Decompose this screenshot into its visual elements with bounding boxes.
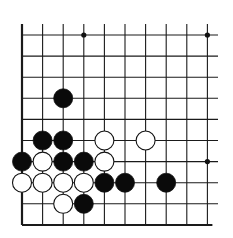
star-point bbox=[205, 159, 210, 164]
black-stone bbox=[54, 89, 73, 108]
star-point bbox=[205, 32, 210, 37]
black-stone bbox=[33, 131, 52, 150]
stones-layer bbox=[13, 89, 176, 214]
white-stone bbox=[95, 152, 114, 171]
white-stone bbox=[33, 152, 52, 171]
black-stone bbox=[95, 173, 114, 192]
black-stone bbox=[74, 194, 93, 213]
white-stone bbox=[95, 131, 114, 150]
white-stone bbox=[54, 194, 73, 213]
black-stone bbox=[116, 173, 135, 192]
white-stone bbox=[54, 173, 73, 192]
black-stone bbox=[74, 152, 93, 171]
white-stone bbox=[33, 173, 52, 192]
black-stone bbox=[54, 131, 73, 150]
go-board bbox=[0, 0, 233, 238]
board-grid bbox=[22, 24, 218, 225]
white-stone bbox=[13, 173, 32, 192]
white-stone bbox=[136, 131, 155, 150]
white-stone bbox=[74, 173, 93, 192]
black-stone bbox=[157, 173, 176, 192]
star-point bbox=[81, 32, 86, 37]
black-stone bbox=[54, 152, 73, 171]
black-stone bbox=[13, 152, 32, 171]
